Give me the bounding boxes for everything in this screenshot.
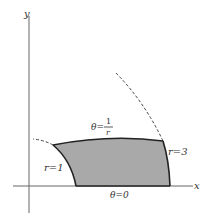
top-edge-label-prefix: θ=: [91, 122, 104, 132]
shaded-region: [53, 138, 170, 186]
top-edge-label-numerator: 1: [106, 117, 111, 126]
inner-arc-label: r=1: [44, 162, 64, 173]
top-edge-label-denominator: r: [106, 128, 111, 137]
bottom-edge-label: θ=0: [110, 190, 129, 200]
x-axis-label: x: [194, 180, 200, 191]
outer-arc-dashed-extension: [115, 72, 163, 141]
top-edge-label: θ= 1 r: [91, 117, 113, 137]
outer-arc-label: r=3: [168, 146, 188, 157]
y-axis-label: y: [23, 8, 30, 19]
polar-region-diagram: y x r=1 r=3 θ=0 θ= 1 r: [0, 0, 206, 223]
inner-arc-dashed-extension: [33, 139, 53, 145]
